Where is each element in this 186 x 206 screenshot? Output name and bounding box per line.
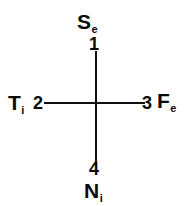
right-order-number: 3 [142,94,152,112]
horizontal-axis-line [44,102,145,104]
left-order-number: 2 [33,94,43,112]
left-function-subscript: i [21,104,24,116]
top-order-number: 1 [89,35,99,53]
vertical-axis-line [95,51,97,163]
right-function-label: Fe [157,90,176,111]
right-function-letter: F [157,89,170,112]
bottom-function-label: Ni [84,180,102,201]
top-function-label: Se [77,11,97,32]
left-function-letter: T [8,91,21,114]
right-function-subscript: e [170,102,176,114]
bottom-function-letter: N [84,179,99,202]
left-function-label: Ti [8,92,24,113]
bottom-function-subscript: i [100,192,103,204]
top-function-letter: S [77,10,91,33]
bottom-order-number: 4 [89,160,99,178]
cross-axis-diagram: Se 1 Ti 2 3 Fe 4 Ni [0,0,186,206]
